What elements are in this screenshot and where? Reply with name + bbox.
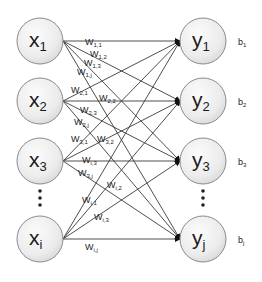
weight-label: Wi,3: [94, 212, 110, 223]
output-ellipsis: [201, 189, 205, 207]
weight-label: W3,j: [78, 168, 93, 179]
output-node-yj: yjbj: [180, 216, 244, 262]
weight-label: W2,2: [99, 93, 117, 104]
nodes: x1x2x3xiy1b1y2b2y3b3yjbj: [17, 18, 247, 262]
weight-label: W1,2: [90, 49, 108, 60]
output-node-y2: y2b2: [180, 78, 247, 124]
weight-label: Wi,1: [82, 195, 98, 206]
weight-label: W3,1: [71, 134, 89, 145]
input-node-x3: x3: [17, 138, 63, 184]
input-node-xi: xi: [17, 216, 63, 262]
weight-label: W2,3: [80, 105, 98, 116]
bias-label-y2: b2: [238, 97, 247, 108]
neural-network-diagram: W1,1W1,2W1,3W1,jW2,1W2,2W2,3W2,jW3,1W3,2…: [0, 0, 262, 282]
weight-label: W2,j: [74, 117, 89, 128]
weight-label: Wi,2: [107, 180, 123, 191]
input-node-x2: x2: [17, 78, 63, 124]
output-node-y3: y3b3: [180, 138, 247, 184]
output-node-y1: y1b1: [180, 18, 247, 64]
bias-label-yj: bj: [238, 235, 244, 246]
input-ellipsis: [38, 189, 42, 207]
weight-label: Wi,j: [85, 242, 98, 253]
bias-label-y1: b1: [238, 37, 247, 48]
weight-label: Wi,3: [82, 155, 98, 166]
weight-label: W1,1: [85, 37, 103, 48]
weight-label: W2,1: [71, 85, 89, 96]
input-node-x1: x1: [17, 18, 63, 64]
bias-label-y3: b3: [238, 157, 247, 168]
